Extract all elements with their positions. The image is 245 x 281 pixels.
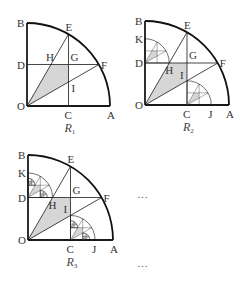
label-b: B [18,149,25,161]
label-h: H [165,64,173,76]
label-d: D [18,192,26,204]
label-e: E [68,153,75,165]
caption-r1: R1 [64,121,76,136]
label-f: F [220,57,226,69]
label-a: A [107,109,115,121]
caption-r3: R3 [66,255,78,270]
label-g: G [71,51,79,63]
label-k: K [18,167,26,179]
label-e: E [66,21,73,33]
label-i: I [72,82,76,94]
label-d: D [135,57,143,69]
label-k: K [135,33,143,45]
label-o: O [17,100,25,112]
label-h: H [46,51,54,63]
label-g: G [189,49,197,61]
label-b: B [135,15,142,27]
label-a: A [226,108,234,120]
label-g: G [73,184,81,196]
label-c: C [65,109,72,121]
quarter-circle-sequence-diagram: OABCDEFGHIR1 OABCDEFGHIJKR2 OABCDEFGHIJK… [0,0,245,281]
figure-r1: OABCDEFGHIR1 [17,17,115,136]
caption-subscript: 3 [74,262,78,270]
caption-subscript: 1 [72,128,76,136]
ellipsis-bottom: … [137,257,148,269]
label-e: E [184,19,191,31]
label-c: C [67,243,74,255]
label-c: C [183,108,190,120]
label-o: O [18,234,26,246]
label-j: J [92,243,97,255]
figure-r2: OABCDEFGHIJKR2 [135,15,234,135]
label-i: I [180,69,184,81]
label-d: D [17,59,25,71]
label-b: B [17,17,24,29]
label-a: A [110,243,118,255]
label-o: O [135,99,143,111]
figure-r3: OABCDEFGHIJKR3 [18,149,118,270]
label-f: F [101,59,107,71]
label-j: J [208,108,213,120]
caption-subscript: 2 [190,127,194,135]
ellipsis-top: … [137,188,148,200]
label-f: F [104,192,110,204]
label-h: H [49,199,57,211]
label-i: I [64,203,68,215]
caption-r2: R2 [182,120,194,135]
